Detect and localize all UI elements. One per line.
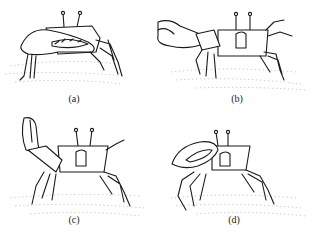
panel-label-b: (b) [222,93,252,104]
panel-d: (d) [156,120,313,240]
panel-label-c: (c) [59,214,89,225]
panel-label-d: (d) [219,214,249,225]
panel-label-a: (a) [59,93,89,104]
panel-c: (c) [0,120,156,240]
panel-b: (b) [156,0,313,120]
panel-a: (a) [0,0,156,120]
